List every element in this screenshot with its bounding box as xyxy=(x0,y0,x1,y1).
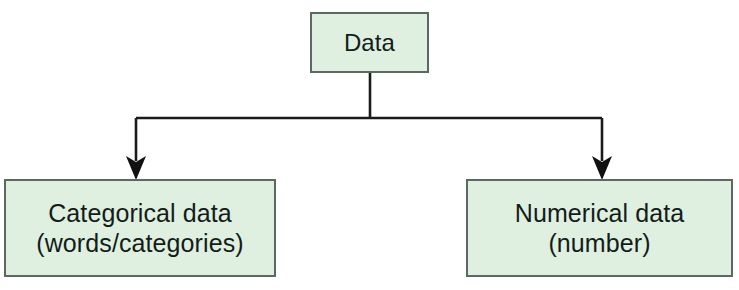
diagram-canvas: Data Categorical data (words/categories)… xyxy=(0,0,739,290)
node-data[interactable]: Data xyxy=(310,12,429,73)
arrowhead-to-numerical-icon xyxy=(592,156,612,180)
node-numerical-data[interactable]: Numerical data (number) xyxy=(466,179,733,277)
node-categorical-data[interactable]: Categorical data (words/categories) xyxy=(4,179,276,277)
arrowhead-to-categorical-icon xyxy=(126,156,146,180)
